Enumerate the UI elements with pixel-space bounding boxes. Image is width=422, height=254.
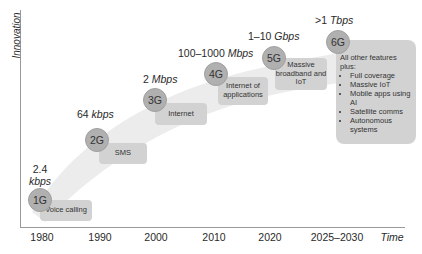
speed-5g: 1–10 Gbps <box>248 30 299 42</box>
y-axis-label: Innovation <box>11 4 22 68</box>
x-tick-2000: 2000 <box>126 231 186 243</box>
speed-1g: 2.4kbps <box>28 163 52 187</box>
speed-6g: >1 Tbps <box>315 14 353 26</box>
generation-circle-3g: 3G <box>143 88 167 112</box>
speed-2g: 64 kbps <box>77 108 114 120</box>
speed-3g: 2 Mbps <box>143 73 177 85</box>
feature-item: Full coverage <box>350 71 412 80</box>
feature-item: Autonomous systems <box>350 116 412 134</box>
generation-circle-1g: 1G <box>28 188 52 212</box>
x-tick-2025-2030: 2025–2030 <box>302 231 372 243</box>
generation-circle-5g: 5G <box>262 46 286 70</box>
speed-4g: 100–1000 Mbps <box>178 47 253 59</box>
x-tick-2010: 2010 <box>184 231 244 243</box>
x-tick-1990: 1990 <box>70 231 130 243</box>
feature-item: Satellite comms <box>350 107 412 116</box>
feature-list-6g: Full coverage Massive IoT Mobile apps us… <box>340 71 412 134</box>
x-tick-2020: 2020 <box>240 231 300 243</box>
feature-intro-6g: All other features plus: <box>340 53 412 71</box>
x-tick-1980: 1980 <box>12 231 72 243</box>
feature-item: Massive IoT <box>350 80 412 89</box>
x-axis-label: Time <box>372 231 412 243</box>
x-axis <box>20 227 405 228</box>
feature-box-6g: All other features plus: Full coverage M… <box>336 40 416 144</box>
generation-circle-2g: 2G <box>85 128 109 152</box>
feature-item: Mobile apps using AI <box>350 89 412 107</box>
generation-circle-4g: 4G <box>204 62 228 86</box>
generation-circle-6g: 6G <box>326 30 350 54</box>
